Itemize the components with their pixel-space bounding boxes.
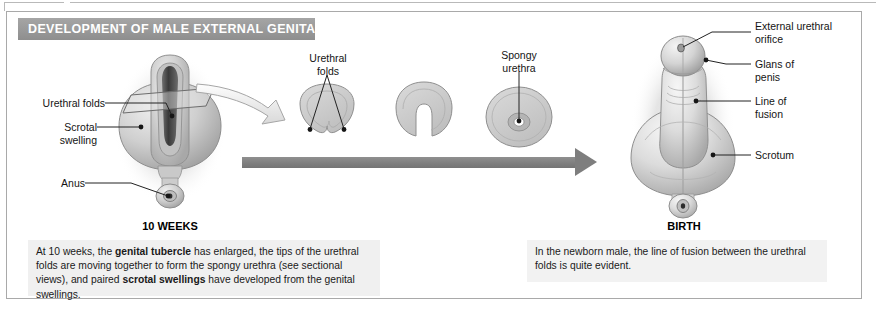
label-urethral-folds: Urethral folds: [8, 97, 105, 110]
section-2-closing-folds: [396, 82, 452, 136]
label-scrotum: Scrotum: [755, 149, 865, 162]
label-anus-line1: Anus: [8, 177, 85, 190]
progression-arrow-head: [575, 148, 597, 176]
caption-birth-text: In the newborn male, the line of fusion …: [535, 246, 806, 271]
illustration-panel: DEVELOPMENT OF MALE EXTERNAL GENITALIA: [0, 0, 876, 310]
caption-10-weeks: At 10 weeks, the genital tubercle has en…: [28, 240, 380, 296]
label-scrotum-line1: Scrotum: [755, 149, 865, 162]
label-line-of-fusion-line2: fusion: [755, 108, 865, 121]
label-scrotal-swelling-line1: Scrotal: [8, 121, 97, 134]
label-anus: Anus: [8, 177, 85, 190]
section-1-urethral-folds: [300, 75, 354, 133]
label-section-spongy-urethra: Spongy urethra: [479, 49, 559, 74]
label-glans-of-penis-line1: Glans of: [755, 58, 865, 71]
label-external-urethral-orifice: External urethral orifice: [755, 20, 865, 45]
label-section-spongy-urethra-line2: urethra: [479, 62, 559, 75]
right-newborn-figure: [631, 36, 735, 218]
label-scrotal-swelling-line2: swelling: [8, 134, 97, 147]
progression-arrow-shaft: [242, 157, 578, 168]
label-section-spongy-urethra-line1: Spongy: [479, 49, 559, 62]
label-section-urethral-folds: Urethral folds: [288, 52, 368, 77]
caption-birth: In the newborn male, the line of fusion …: [527, 240, 827, 282]
left-embryo-figure: [114, 52, 226, 208]
label-urethral-folds-line1: Urethral folds: [8, 97, 105, 110]
label-section-urethral-folds-line2: folds: [288, 65, 368, 78]
label-external-urethral-orifice-line2: orifice: [755, 33, 865, 46]
label-glans-of-penis: Glans of penis: [755, 58, 865, 83]
stage-title-10-weeks: 10 WEEKS: [110, 220, 230, 232]
section-3-spongy-urethra: [486, 72, 552, 147]
label-scrotal-swelling: Scrotal swelling: [8, 121, 97, 146]
label-line-of-fusion-line1: Line of: [755, 95, 865, 108]
label-external-urethral-orifice-line1: External urethral: [755, 20, 865, 33]
caption-10-weeks-text: At 10 weeks, the genital tubercle has en…: [36, 246, 359, 300]
stage-title-birth: BIRTH: [638, 220, 730, 232]
label-section-urethral-folds-line1: Urethral: [288, 52, 368, 65]
label-glans-of-penis-line2: penis: [755, 71, 865, 84]
label-line-of-fusion: Line of fusion: [755, 95, 865, 120]
